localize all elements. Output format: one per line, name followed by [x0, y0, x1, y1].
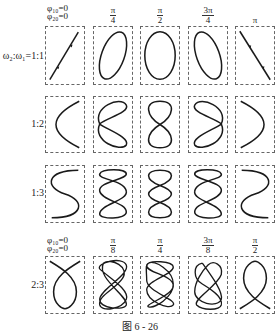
- lissajous-cell-r1-c1: [45, 26, 85, 85]
- lissajous-cell-r2-c5: [235, 96, 275, 153]
- lissajous-cell-r4-c4: [188, 256, 228, 314]
- phase-label-row4-col2: π8: [93, 236, 133, 255]
- upright-ellipse-figure: [141, 27, 179, 84]
- row-label-1-1: ω₂:ω₁=1:1: [3, 50, 44, 61]
- figure-eight-figure: [189, 97, 227, 152]
- phase-label-row1-col2: π4: [93, 6, 133, 25]
- parabola-figure: [236, 97, 274, 152]
- phase-label-row4-col4: 3π8: [188, 236, 228, 255]
- triple-loop-figure: [141, 166, 179, 222]
- knot-figure: [141, 257, 179, 313]
- lissajous-cell-r1-c4: [188, 26, 228, 85]
- lissajous-cell-r3-c2: [93, 165, 133, 223]
- row-label-2-3: 2:3: [31, 279, 44, 290]
- knot-figure: [94, 257, 132, 313]
- parabola-figure: [46, 97, 84, 152]
- lissajous-cell-r3-c4: [188, 165, 228, 223]
- lissajous-cell-r3-c1: [45, 165, 85, 223]
- knot-figure: [189, 257, 227, 313]
- figure-eight-figure: [94, 97, 132, 152]
- lissajous-cell-r1-c5: [235, 26, 275, 85]
- lissajous-cell-r4-c2: [93, 256, 133, 314]
- lissajous-cell-r3-c5: [235, 165, 275, 223]
- tilted-ellipse-figure: [94, 27, 132, 84]
- phase-label-row1-col3: π2: [140, 6, 180, 25]
- tilted-ellipse-figure: [189, 27, 227, 84]
- phase-label-row4-col1: φ₁₀=0 φ₂₀=0: [47, 236, 68, 252]
- phase-label-row1-col4: 3π4: [188, 6, 228, 25]
- s-curve-figure: [46, 166, 84, 222]
- lissajous-cell-r1-c2: [93, 26, 133, 85]
- lissajous-cell-r2-c1: [45, 96, 85, 153]
- lissajous-cell-r1-c3: [140, 26, 180, 85]
- fish-loop-figure: [236, 257, 274, 313]
- lissajous-cell-r4-c1: [45, 256, 85, 314]
- phase-label-row1-col5: π: [235, 16, 275, 25]
- lissajous-cell-r2-c3: [140, 96, 180, 153]
- lissajous-cell-r2-c4: [188, 96, 228, 153]
- triple-loop-figure: [189, 166, 227, 222]
- triple-loop-figure: [94, 166, 132, 222]
- lissajous-cell-r2-c2: [93, 96, 133, 153]
- figure-eight-figure: [141, 97, 179, 152]
- figure-caption: 图 6 - 26: [0, 318, 280, 333]
- lissajous-cell-r4-c3: [140, 256, 180, 314]
- diagonal-line-figure: [236, 27, 274, 84]
- diagonal-line-figure: [46, 27, 84, 84]
- phase-label-row1-col1: φ₁₀=0 φ₂₀=0: [47, 4, 68, 20]
- lissajous-cell-r4-c5: [235, 256, 275, 314]
- phase-label-row4-col3: π4: [140, 236, 180, 255]
- phase-label-row4-col5: π2: [235, 236, 275, 255]
- row-label-1-3: 1:3: [31, 187, 44, 198]
- lissajous-cell-r3-c3: [140, 165, 180, 223]
- fish-loop-figure: [46, 257, 84, 313]
- s-curve-figure: [236, 166, 274, 222]
- row-label-1-2: 1:2: [31, 118, 44, 129]
